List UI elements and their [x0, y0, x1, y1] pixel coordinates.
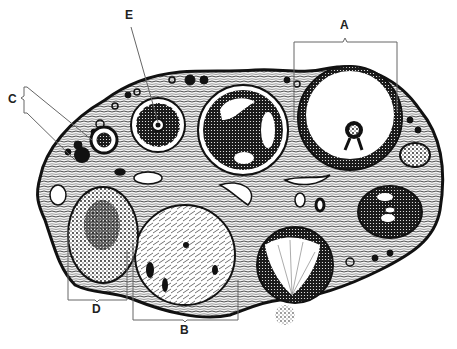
label-e: E: [125, 8, 133, 22]
ovary-diagram: [0, 0, 457, 349]
label-a: A: [340, 18, 349, 32]
label-b: B: [180, 323, 189, 337]
label-c: C: [8, 92, 17, 106]
tertiary-follicle: [198, 85, 288, 175]
graafian-follicle: [298, 66, 402, 170]
label-d: D: [92, 302, 101, 316]
ruptured-follicle: [257, 227, 333, 325]
corpus-luteum: [135, 205, 235, 305]
secondary-follicle: [131, 98, 185, 152]
